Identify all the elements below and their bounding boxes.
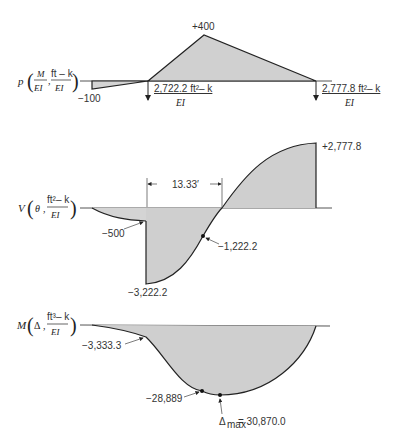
load-axis-label: p ( M EI , ft – k EI ) bbox=[17, 68, 79, 93]
shear-negative-region bbox=[146, 208, 222, 284]
svg-text:): ) bbox=[70, 197, 77, 220]
svg-text:−3,333.3: −3,333.3 bbox=[82, 340, 122, 351]
svg-text:2,722.2 ft²– k: 2,722.2 ft²– k bbox=[154, 83, 213, 94]
shear-positive-region bbox=[222, 143, 316, 208]
svg-text:+2,777.8: +2,777.8 bbox=[322, 141, 362, 152]
svg-text:EI: EI bbox=[33, 83, 43, 93]
svg-text:13.33′: 13.33′ bbox=[172, 179, 199, 190]
svg-text:θ: θ bbox=[35, 203, 40, 214]
svg-text:EI: EI bbox=[175, 98, 186, 108]
svg-text:ft – k: ft – k bbox=[51, 68, 74, 79]
moment-axis-label: M ( Δ , ft³– k EI ) bbox=[16, 311, 77, 337]
svg-text:Δ: Δ bbox=[34, 320, 41, 331]
moment-point-marker bbox=[200, 389, 204, 393]
moment-region bbox=[92, 325, 316, 395]
shear-point-marker bbox=[201, 234, 205, 238]
max-deflection-marker bbox=[218, 393, 222, 397]
svg-text:= 30,870.0: = 30,870.0 bbox=[238, 416, 286, 427]
svg-text:EI: EI bbox=[50, 210, 60, 220]
shear-axis-label: V ( θ , ft²– k EI ) bbox=[18, 194, 77, 220]
svg-text:V: V bbox=[18, 202, 26, 214]
svg-text:+400: +400 bbox=[192, 21, 215, 32]
svg-text:−100: −100 bbox=[78, 93, 101, 104]
load-positive-triangle bbox=[148, 35, 316, 81]
svg-text:−1,222.2: −1,222.2 bbox=[218, 241, 258, 252]
svg-text:−28,889: −28,889 bbox=[146, 393, 183, 404]
load-negative-triangle bbox=[92, 81, 148, 89]
svg-text:EI: EI bbox=[54, 83, 64, 93]
svg-text:2,777.8 ft²– k: 2,777.8 ft²– k bbox=[322, 83, 381, 94]
svg-text:Δ: Δ bbox=[219, 416, 226, 427]
svg-text:(: ( bbox=[27, 70, 34, 93]
svg-text:ft²– k: ft²– k bbox=[47, 194, 70, 205]
svg-text:): ) bbox=[70, 314, 77, 337]
moment-diagram: M ( Δ , ft³– k EI ) −3,333.3 −28,889 Δ m… bbox=[16, 311, 330, 430]
svg-text:M: M bbox=[16, 319, 27, 331]
svg-text:,: , bbox=[43, 320, 46, 331]
svg-text:−500: −500 bbox=[102, 228, 125, 239]
svg-text:): ) bbox=[72, 70, 79, 93]
svg-text:,: , bbox=[43, 203, 46, 214]
svg-text:(: ( bbox=[27, 314, 34, 337]
svg-text:−3,222.2: −3,222.2 bbox=[128, 287, 168, 298]
svg-text:M: M bbox=[36, 69, 45, 79]
load-diagram: p ( M EI , ft – k EI ) −100 +400 2,722.2… bbox=[17, 21, 381, 108]
svg-text:EI: EI bbox=[344, 98, 355, 108]
svg-text:p: p bbox=[17, 75, 24, 87]
shear-diagram: V ( θ , ft²– k EI ) 13.33′ −500 −3,222.2… bbox=[18, 141, 362, 298]
svg-text:EI: EI bbox=[50, 327, 60, 337]
svg-text:ft³– k: ft³– k bbox=[47, 311, 70, 322]
svg-text:(: ( bbox=[27, 197, 34, 220]
deflection-diagrams: p ( M EI , ft – k EI ) −100 +400 2,722.2… bbox=[0, 0, 400, 441]
